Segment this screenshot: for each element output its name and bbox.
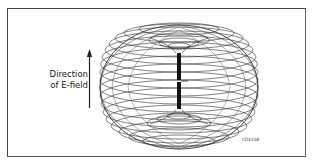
figure-code: CD1158 (242, 137, 259, 142)
label-line-2: of E-field (40, 80, 88, 91)
e-field-direction-label: Direction of E-field (40, 69, 88, 91)
label-line-1: Direction (40, 69, 88, 80)
dipole-antenna (177, 53, 188, 109)
